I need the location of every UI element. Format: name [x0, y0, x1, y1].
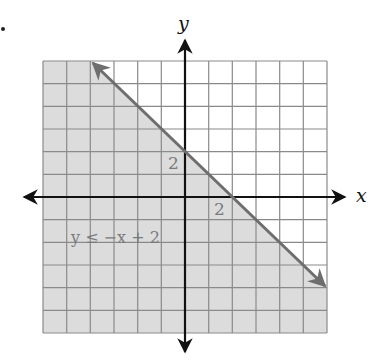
x-intercept-label: 2	[214, 199, 225, 219]
y-axis-label: y	[178, 12, 189, 34]
y-intercept-label: 2	[168, 153, 179, 173]
coordinate-plane	[0, 0, 378, 361]
x-axis-label: x	[356, 184, 367, 206]
inequality-label: y ≤ −x + 2	[71, 228, 160, 247]
problem-bullet	[1, 27, 5, 31]
